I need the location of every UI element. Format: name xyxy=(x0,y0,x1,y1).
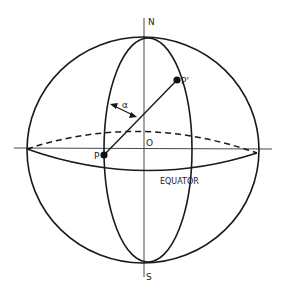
p-to-p-prime-line xyxy=(104,80,177,155)
origin-label: O xyxy=(146,138,153,148)
meridian-ellipse xyxy=(104,38,192,262)
point-p-marker xyxy=(100,151,107,158)
point-p-label: P xyxy=(94,151,100,161)
horizontal-axis xyxy=(14,148,272,149)
north-label: N xyxy=(148,17,155,27)
point-p-prime-marker xyxy=(173,76,180,83)
equator-label: EQUATOR xyxy=(160,177,199,186)
sphere-diagram: N S O P P' α EQUATOR xyxy=(0,0,291,295)
equator-front-arc xyxy=(27,149,257,171)
south-label: S xyxy=(146,272,152,282)
equator-back-arc xyxy=(27,131,257,153)
point-p-prime-label: P' xyxy=(181,76,189,86)
sphere-outline xyxy=(27,37,259,263)
angle-label: α xyxy=(122,100,128,110)
